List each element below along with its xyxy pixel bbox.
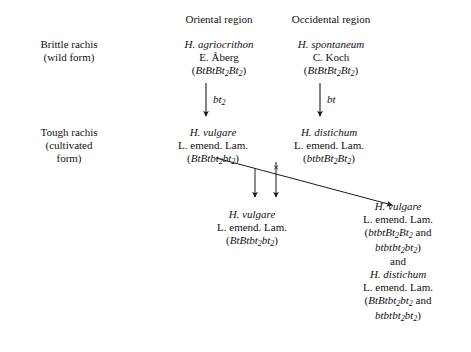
taxon-h-distichum-occidental-species: H. distichum bbox=[294, 126, 364, 139]
offspring-right-1-authority: L. emend. Lam. bbox=[363, 213, 433, 226]
offspring-group-right: H. vulgare L. emend. Lam. (btbtBt2Bt2 an… bbox=[363, 200, 433, 323]
row-label-tough-rachis: Tough rachis (cultivated form) bbox=[41, 126, 98, 166]
mutation-label-bt: bt bbox=[327, 93, 336, 106]
taxon-h-vulgare-oriental-authority: L. emend. Lam. bbox=[178, 139, 248, 152]
taxon-h-vulgare-oriental-species: H. vulgare bbox=[178, 126, 248, 139]
taxon-h-agriocrithon: H. agriocrithon E. Åberg (BtBtBt2Bt2) bbox=[184, 38, 253, 79]
taxon-h-vulgare-hybrid-center-species: H. vulgare bbox=[217, 208, 287, 221]
offspring-right-2-authority: L. emend. Lam. bbox=[363, 281, 433, 294]
row-label-tough-rachis-line-2: (cultivated bbox=[41, 139, 98, 152]
cross-symbol: × bbox=[273, 161, 279, 174]
taxon-h-distichum-occidental-genotype: (btbtBt2Bt2) bbox=[294, 152, 364, 166]
row-label-brittle-rachis-line-1: Brittle rachis bbox=[40, 38, 97, 51]
pedigree-diagram-canvas: × Oriental region Occidental region Brit… bbox=[0, 0, 471, 352]
offspring-right-1-genotype-line-1: (btbtBt2Bt2 and bbox=[363, 226, 433, 240]
taxon-h-distichum-occidental: H. distichum L. emend. Lam. (btbtBt2Bt2) bbox=[294, 126, 364, 167]
offspring-right-1-species: H. vulgare bbox=[363, 200, 433, 213]
offspring-right-2-genotype-line-1: (BtBtbt2bt2 and bbox=[363, 294, 433, 308]
taxon-h-spontaneum-authority: C. Koch bbox=[298, 51, 365, 64]
offspring-right-1-genotype-line-2: btbtbt2bt2) bbox=[363, 241, 433, 255]
taxon-h-vulgare-hybrid-center-authority: L. emend. Lam. bbox=[217, 221, 287, 234]
offspring-right-2-genotype-line-2: btbtbt2bt2) bbox=[363, 309, 433, 323]
taxon-h-agriocrithon-genotype: (BtBtBt2Bt2) bbox=[184, 64, 253, 78]
column-header-occidental: Occidental region bbox=[292, 13, 371, 26]
taxon-h-spontaneum-species: H. spontaneum bbox=[298, 38, 365, 51]
column-header-oriental: Oriental region bbox=[186, 13, 253, 26]
offspring-right-2-species: H. distichum bbox=[363, 268, 433, 281]
taxon-h-agriocrithon-species: H. agriocrithon bbox=[184, 38, 253, 51]
taxon-h-spontaneum: H. spontaneum C. Koch (BtBtBt2Bt2) bbox=[298, 38, 365, 79]
row-label-tough-rachis-line-1: Tough rachis bbox=[41, 126, 98, 139]
taxon-h-distichum-occidental-authority: L. emend. Lam. bbox=[294, 139, 364, 152]
taxon-h-spontaneum-genotype: (BtBtBt2Bt2) bbox=[298, 64, 365, 78]
taxon-h-vulgare-oriental: H. vulgare L. emend. Lam. (BtBtbt2bt2) bbox=[178, 126, 248, 167]
taxon-h-vulgare-oriental-genotype: (BtBtbt2bt2) bbox=[178, 152, 248, 166]
row-label-tough-rachis-line-3: form) bbox=[41, 152, 98, 165]
taxon-h-vulgare-hybrid-center-genotype: (BtBtbt2bt2) bbox=[217, 234, 287, 248]
row-label-brittle-rachis-line-2: (wild form) bbox=[40, 51, 97, 64]
taxon-h-vulgare-hybrid-center: H. vulgare L. emend. Lam. (BtBtbt2bt2) bbox=[217, 208, 287, 249]
offspring-right-conjunction: and bbox=[363, 255, 433, 268]
taxon-h-agriocrithon-authority: E. Åberg bbox=[184, 51, 253, 64]
mutation-label-bt2: bt2 bbox=[213, 93, 226, 107]
row-label-brittle-rachis: Brittle rachis (wild form) bbox=[40, 38, 97, 64]
